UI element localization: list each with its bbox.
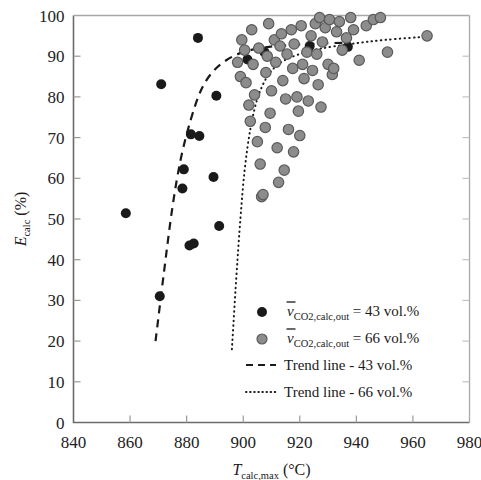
data-point: [263, 18, 273, 28]
data-point: [302, 47, 312, 57]
data-point: [324, 14, 334, 24]
legend-item-trend-43[interactable]: Trend line - 43 vol.%: [242, 356, 442, 380]
data-point: [316, 102, 326, 112]
data-point: [307, 65, 317, 75]
data-point: [303, 96, 313, 106]
data-point: [348, 25, 358, 35]
data-point: [354, 55, 364, 65]
x-tick-label: 960: [400, 433, 426, 452]
data-point: [214, 221, 224, 231]
y-tick-label: 100: [39, 7, 65, 26]
legend-item-series-43[interactable]: vCO2,calc,out = 43 vol.%: [242, 302, 442, 326]
data-point: [337, 45, 347, 55]
y-tick-label: 30: [48, 291, 65, 310]
data-point: [121, 208, 131, 218]
data-point: [273, 177, 283, 187]
y-tick-label: 90: [48, 47, 65, 66]
y-tick-label: 60: [48, 169, 65, 188]
data-point: [255, 159, 265, 169]
data-point: [239, 45, 249, 55]
data-point: [186, 129, 196, 139]
legend-item-series-66[interactable]: vCO2,calc,out = 66 vol.%: [242, 329, 442, 353]
data-point: [382, 47, 392, 57]
data-point: [306, 31, 316, 41]
x-tick-label: 920: [287, 433, 313, 452]
data-point: [252, 136, 262, 146]
x-tick-label: 840: [61, 433, 87, 452]
data-point: [247, 25, 257, 35]
data-point: [272, 143, 282, 153]
x-tick-label: 980: [457, 433, 481, 452]
x-tick-label: 860: [117, 433, 143, 452]
y-tick-label: 50: [48, 210, 65, 229]
data-point: [293, 106, 303, 116]
data-point: [299, 73, 309, 83]
data-point: [177, 183, 187, 193]
data-point: [237, 35, 247, 45]
y-tick-label: 80: [48, 88, 65, 107]
data-point: [288, 147, 298, 157]
legend-marker-gray-circle-icon: [257, 334, 267, 344]
data-point: [271, 57, 281, 67]
data-point: [260, 122, 270, 132]
data-point: [317, 37, 327, 47]
y-tick-label: 10: [48, 373, 65, 392]
data-point: [280, 94, 290, 104]
data-point: [286, 25, 296, 35]
data-point: [276, 29, 286, 39]
data-point: [375, 12, 385, 22]
data-point: [258, 189, 268, 199]
data-point: [232, 57, 242, 67]
y-tick-label: 0: [56, 414, 65, 433]
data-point: [254, 43, 264, 53]
data-point: [241, 77, 251, 87]
data-point: [179, 164, 189, 174]
data-point: [193, 33, 203, 43]
data-point: [261, 67, 271, 77]
data-point: [194, 131, 204, 141]
data-point: [334, 16, 344, 26]
data-point: [248, 59, 258, 69]
data-point: [288, 63, 298, 73]
data-point: [292, 92, 302, 102]
data-point: [283, 124, 293, 134]
data-point: [296, 20, 306, 30]
data-point: [189, 238, 199, 248]
data-point: [249, 90, 259, 100]
y-tick-label: 20: [48, 332, 65, 351]
data-point: [211, 91, 221, 101]
data-point: [209, 172, 219, 182]
legend-item-trend-66[interactable]: Trend line - 66 vol.%: [242, 383, 442, 407]
x-tick-label: 940: [344, 433, 370, 452]
legend-label: Trend line - 66 vol.%: [284, 384, 412, 400]
data-point: [279, 165, 289, 175]
legend-marker-filled-circle-icon: [257, 307, 267, 317]
y-tick-label: 70: [48, 129, 65, 148]
data-point: [266, 86, 276, 96]
data-point: [297, 59, 307, 69]
x-tick-label: 900: [230, 433, 256, 452]
data-point: [282, 49, 292, 59]
data-point: [314, 12, 324, 22]
scatter-chart-figure: 0102030405060708090100840860880900920940…: [0, 0, 481, 480]
chart-svg: 0102030405060708090100840860880900920940…: [0, 0, 481, 480]
data-point: [295, 130, 305, 140]
data-point: [265, 108, 275, 118]
data-point: [156, 79, 166, 89]
data-point: [245, 116, 255, 126]
data-point: [312, 49, 322, 59]
data-point: [155, 291, 165, 301]
data-point: [289, 39, 299, 49]
data-point: [313, 79, 323, 89]
data-point: [244, 100, 254, 110]
data-point: [422, 31, 432, 41]
data-point: [346, 12, 356, 22]
data-point: [331, 27, 341, 37]
data-point: [278, 75, 288, 85]
data-point: [329, 63, 339, 73]
y-tick-label: 40: [48, 251, 65, 270]
legend-label: Trend line - 43 vol.%: [284, 357, 412, 373]
x-tick-label: 880: [174, 433, 200, 452]
